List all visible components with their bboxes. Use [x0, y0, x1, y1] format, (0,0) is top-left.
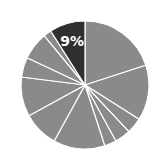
- pie-chart: 9%: [0, 0, 158, 163]
- slice-label: 9%: [60, 33, 84, 49]
